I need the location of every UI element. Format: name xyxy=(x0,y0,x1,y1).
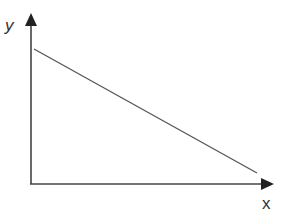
y-axis-arrowhead-icon xyxy=(25,13,37,26)
y-axis-label: y xyxy=(4,16,15,35)
decreasing-line xyxy=(34,49,257,173)
x-axis-arrowhead-icon xyxy=(261,178,274,190)
graph-diagram: y x xyxy=(0,0,297,212)
x-axis-label: x xyxy=(262,194,271,212)
